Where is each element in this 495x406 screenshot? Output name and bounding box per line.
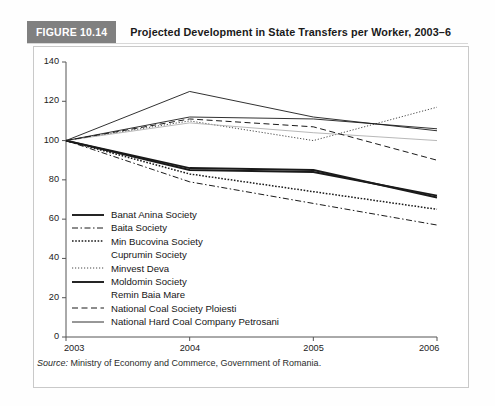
legend-item: Remin Baia Mare <box>72 288 279 301</box>
header-rule <box>27 43 468 44</box>
legend-swatch-icon <box>72 262 104 274</box>
y-axis-tick-label: 80 <box>26 174 59 184</box>
legend-item: Moldomin Society <box>72 275 279 288</box>
figure-title: Projected Development in State Transfers… <box>116 21 451 43</box>
legend-item: Banat Anina Society <box>72 208 279 221</box>
source-label: Source: <box>37 358 68 368</box>
legend-item-label: Banat Anina Society <box>111 208 197 221</box>
y-axis-tick-label: 20 <box>26 292 59 302</box>
legend-swatch-icon <box>72 302 104 314</box>
figure-number-badge: FIGURE 10.14 <box>27 21 116 43</box>
legend-item: Minvest Deva <box>72 262 279 275</box>
legend-item: Cuprumin Society <box>72 248 279 261</box>
legend-item: Min Bucovina Society <box>72 235 279 248</box>
legend-swatch-icon <box>72 276 104 288</box>
y-axis-tick-label: 0 <box>26 331 59 341</box>
legend-swatch-icon <box>72 289 104 301</box>
legend-item: National Hard Coal Company Petrosani <box>72 315 279 328</box>
x-axis-tick-label: 2005 <box>303 343 323 353</box>
legend-item-label: Baita Society <box>111 221 167 234</box>
legend-swatch-icon <box>72 316 104 328</box>
legend-swatch-icon <box>72 235 104 247</box>
legend-item-label: Min Bucovina Society <box>111 235 203 248</box>
legend-item: National Coal Society Ploiesti <box>72 302 279 315</box>
y-axis-tick-label: 100 <box>26 135 59 145</box>
y-axis-tick-label: 120 <box>26 95 59 105</box>
x-axis-tick-label: 2006 <box>419 343 439 353</box>
legend-item-label: Moldomin Society <box>111 275 187 288</box>
legend-swatch-icon <box>72 249 104 261</box>
legend-item-label: National Hard Coal Company Petrosani <box>111 315 279 328</box>
legend-item-label: Minvest Deva <box>111 262 169 275</box>
legend-item-label: Remin Baia Mare <box>111 288 185 301</box>
source-text: Ministry of Economy and Commerce, Govern… <box>68 358 321 368</box>
legend-swatch-icon <box>72 222 104 234</box>
legend-item-label: Cuprumin Society <box>111 248 187 261</box>
legend-item-label: National Coal Society Ploiesti <box>111 302 236 315</box>
chart-legend: Banat Anina SocietyBaita SocietyMin Buco… <box>72 208 279 329</box>
x-axis-tick-label: 2004 <box>180 343 200 353</box>
y-axis-tick-label: 60 <box>26 213 59 223</box>
figure-container: FIGURE 10.14 Projected Development in St… <box>0 0 495 406</box>
x-axis-tick-label: 2003 <box>64 343 84 353</box>
y-axis-tick-label: 40 <box>26 252 59 262</box>
y-axis-tick-label: 140 <box>26 56 59 66</box>
source-note: Source: Ministry of Economy and Commerce… <box>37 358 321 368</box>
legend-item: Baita Society <box>72 221 279 234</box>
figure-header: FIGURE 10.14 Projected Development in St… <box>27 21 468 43</box>
legend-swatch-icon <box>72 209 104 221</box>
